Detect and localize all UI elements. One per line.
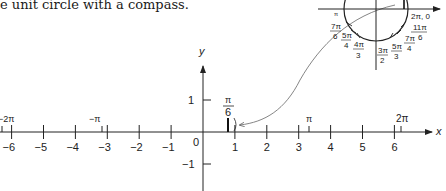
circle-label-pi: π: [334, 11, 338, 17]
circle-label-7pi6-num: 7π: [331, 22, 341, 31]
circle-label-5pi3-den: 3: [394, 52, 399, 61]
diagram: x y −6−5−4−3−2−1123456 0 1 −1 −2π −π π 2…: [0, 0, 446, 191]
circle-label-5pi3-num: 5π: [392, 42, 402, 51]
pi-label-pi: π: [306, 114, 312, 124]
x-tick-label: 1: [232, 141, 238, 153]
x-tick-label: 3: [296, 141, 302, 153]
x-tick-label: −1: [162, 141, 175, 153]
circle-label-11pi6-den: 6: [418, 33, 423, 42]
pi-over-6-num: π: [225, 95, 231, 105]
circle-label-11pi6-num: 11π: [413, 23, 427, 32]
circle-label-7pi4-num: 7π: [405, 34, 415, 43]
x-tick-label: −5: [35, 141, 48, 153]
y-tick-label-minus1: −1: [182, 158, 195, 170]
circle-label-2pi0: 2π, 0: [411, 12, 430, 21]
circle-label-7pi4-den: 4: [407, 44, 412, 53]
x-tick-label: 2: [264, 141, 270, 153]
pi-label-negpi: −π: [89, 114, 100, 124]
circle-label-3pi2-den: 2: [380, 56, 385, 65]
circle-label-4pi3-num: 4π: [354, 40, 364, 49]
pi-label-neg2pi: −2π: [0, 114, 14, 124]
y-tick-label-1: 1: [188, 94, 194, 106]
brace: [234, 118, 236, 131]
wrap-arrow: [240, 5, 395, 125]
x-tick-label: 5: [360, 141, 366, 153]
circle-label-5pi4-num: 5π: [342, 31, 352, 40]
y-axis-label: y: [198, 45, 206, 57]
pi-over-6-den: 6: [225, 106, 231, 118]
origin-label: 0: [193, 136, 199, 148]
x-tick-label: −6: [3, 141, 16, 153]
circle-label-4pi3-den: 3: [356, 51, 361, 60]
x-tick-label: 4: [328, 141, 334, 153]
pi-label-2pi: 2π: [396, 113, 409, 124]
circle-label-7pi6-den: 6: [333, 32, 338, 41]
x-tick-label: −4: [66, 141, 79, 153]
x-tick-label: −2: [130, 141, 143, 153]
x-ticks: −6−5−4−3−2−1123456: [3, 125, 398, 153]
circle-label-3pi2-num: 3π: [378, 46, 388, 55]
x-axis-label: x: [435, 125, 442, 137]
unit-circle: π 7π 6 5π 4 4π 3 3π 2 5π 3 7π 4 11π 6 2π…: [318, 0, 440, 70]
x-tick-label: −3: [98, 141, 111, 153]
circle-label-5pi4-den: 4: [344, 41, 349, 50]
x-tick-label: 6: [391, 141, 397, 153]
